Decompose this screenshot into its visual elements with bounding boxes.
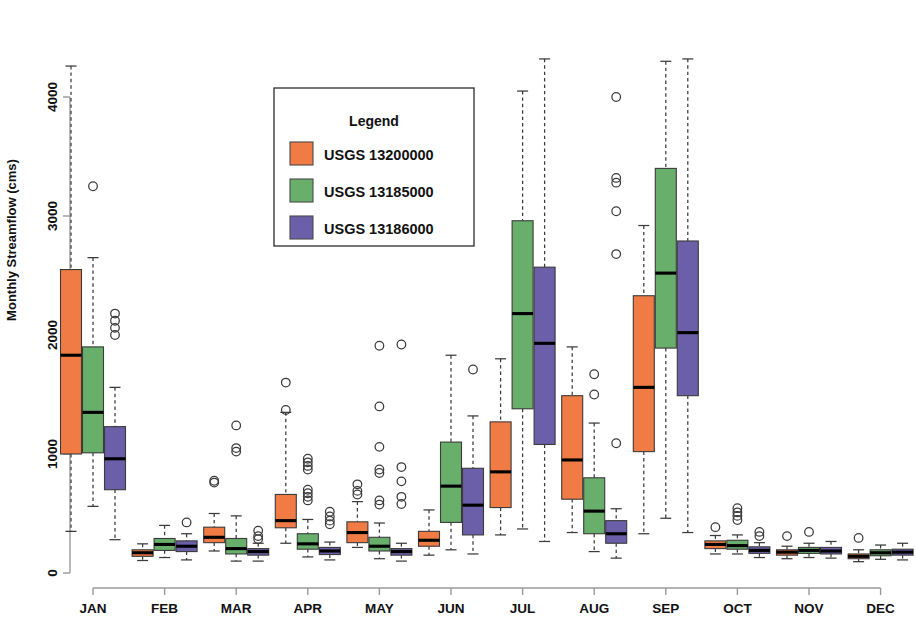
box-plot-item[interactable]: [870, 545, 891, 559]
box-iqr[interactable]: [655, 168, 676, 348]
box-plot-item[interactable]: [777, 532, 798, 559]
box-plot-item[interactable]: [655, 61, 676, 518]
box-plot-item[interactable]: [204, 476, 225, 551]
box-plot-item[interactable]: [463, 365, 484, 554]
box-plot-item[interactable]: [562, 347, 583, 533]
outlier-point: [805, 528, 814, 537]
box-plot-item[interactable]: [347, 480, 368, 547]
box-iqr[interactable]: [83, 347, 104, 453]
x-category-label: DEC: [866, 601, 895, 616]
y-tick-label: 2000: [45, 320, 60, 350]
outlier-point: [282, 378, 291, 387]
box-plot-item[interactable]: [892, 543, 913, 560]
outlier-point: [232, 421, 241, 430]
box-plot-item[interactable]: [727, 504, 748, 554]
x-category-label: APR: [294, 601, 323, 616]
outlier-point: [783, 532, 792, 541]
box-iqr[interactable]: [441, 442, 462, 522]
x-category-label: MAY: [365, 601, 394, 616]
box-iqr[interactable]: [562, 396, 583, 500]
x-category-label: JAN: [79, 601, 106, 616]
box-plot-item[interactable]: [83, 182, 104, 506]
box-iqr[interactable]: [534, 267, 555, 444]
y-tick-label: 1000: [45, 439, 60, 469]
box-plot-item[interactable]: [275, 378, 296, 543]
box-plot-item[interactable]: [677, 59, 698, 533]
box-series-layer: [61, 59, 914, 562]
outlier-point: [854, 534, 863, 543]
x-category-label: NOV: [794, 601, 823, 616]
y-tick-label: 4000: [45, 82, 60, 112]
legend-swatch: [290, 216, 313, 239]
y-axis-label-text: Monthly Streamflow (cms): [4, 159, 19, 321]
box-iqr[interactable]: [275, 494, 296, 527]
box-plot-item[interactable]: [391, 340, 412, 561]
x-category-label: JUN: [437, 601, 464, 616]
legend-swatch: [290, 179, 313, 202]
box-iqr[interactable]: [606, 521, 627, 544]
box-iqr[interactable]: [677, 241, 698, 396]
boxplot-figure: 01000200030004000 JANFEBMARAPRMAYJUNJULA…: [0, 0, 917, 624]
x-category-label: JUL: [510, 601, 536, 616]
outlier-point: [590, 390, 599, 399]
box-plot-item[interactable]: [441, 355, 462, 550]
box-plot-item[interactable]: [633, 226, 654, 534]
outlier-point: [375, 402, 384, 411]
outlier-point: [612, 207, 621, 216]
box-plot-item[interactable]: [176, 518, 197, 560]
legend-entry-label: USGS 13186000: [324, 221, 434, 237]
outlier-point: [397, 477, 406, 486]
box-plot-item[interactable]: [419, 510, 440, 555]
box-plot-item[interactable]: [749, 528, 770, 558]
outlier-point: [469, 365, 478, 374]
box-iqr[interactable]: [463, 468, 484, 535]
outlier-point: [612, 93, 621, 102]
box-plot-item[interactable]: [848, 534, 869, 562]
box-plot-item[interactable]: [490, 359, 511, 535]
legend-entry-label: USGS 13200000: [324, 147, 434, 163]
x-category-label: MAR: [221, 601, 252, 616]
x-category-label: AUG: [579, 601, 609, 616]
outlier-point: [590, 370, 599, 379]
box-iqr[interactable]: [226, 538, 247, 553]
box-plot-item[interactable]: [226, 421, 247, 561]
box-plot-item[interactable]: [584, 370, 605, 552]
box-plot-item[interactable]: [821, 541, 842, 558]
box-plot-item[interactable]: [132, 544, 153, 561]
box-iqr[interactable]: [369, 537, 390, 551]
outlier-point: [612, 439, 621, 448]
box-plot-item[interactable]: [705, 523, 726, 554]
box-plot-item[interactable]: [512, 91, 533, 529]
box-iqr[interactable]: [297, 534, 318, 549]
outlier-point: [375, 341, 384, 350]
outlier-point: [397, 340, 406, 349]
box-iqr[interactable]: [61, 270, 82, 454]
y-axis-title: Monthly Streamflow (cms): [4, 159, 19, 321]
box-iqr[interactable]: [633, 296, 654, 452]
y-tick-label: 3000: [45, 201, 60, 231]
legend: LegendUSGS 13200000USGS 13185000USGS 131…: [274, 88, 474, 246]
y-tick-label: 0: [45, 569, 60, 577]
outlier-point: [182, 518, 191, 527]
box-plot-item[interactable]: [319, 507, 340, 559]
legend-entry-label: USGS 13185000: [324, 184, 434, 200]
box-plot-item[interactable]: [105, 309, 126, 539]
box-plot-item[interactable]: [154, 525, 175, 557]
chart-canvas: 01000200030004000 JANFEBMARAPRMAYJUNJULA…: [0, 0, 917, 624]
box-plot-item[interactable]: [61, 66, 82, 531]
box-iqr[interactable]: [584, 478, 605, 534]
box-iqr[interactable]: [204, 527, 225, 542]
box-iqr[interactable]: [490, 422, 511, 508]
outlier-point: [612, 250, 621, 259]
outlier-point: [375, 443, 384, 452]
box-plot-item[interactable]: [248, 526, 269, 561]
legend-swatch: [290, 142, 313, 165]
x-category-label: OCT: [723, 601, 752, 616]
box-plot-item[interactable]: [534, 59, 555, 542]
box-plot-item[interactable]: [369, 341, 390, 558]
box-plot-item[interactable]: [799, 528, 820, 558]
outlier-point: [711, 523, 720, 532]
box-plot-item[interactable]: [297, 454, 318, 556]
x-axis: JANFEBMARAPRMAYJUNJULAUGSEPOCTNOVDEC: [79, 588, 895, 616]
box-plot-item[interactable]: [606, 93, 627, 558]
